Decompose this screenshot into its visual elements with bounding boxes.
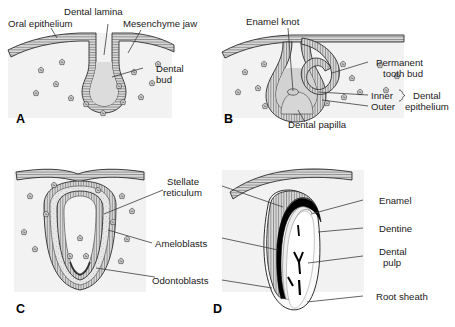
label-permanent-tooth-bud-line2: tooth bud <box>383 68 423 79</box>
panel-letter-c: C <box>16 302 25 316</box>
label-oral-epithelium: Oral epithelium <box>8 18 73 29</box>
label-dental-epithelium-line1: Dental <box>413 90 441 101</box>
label-permanent-tooth-bud-line1: Permanent <box>376 57 423 68</box>
label-enamel-knot: Enamel knot <box>246 16 299 27</box>
label-dental-pulp-line1: Dental <box>379 246 407 257</box>
label-dental-pulp-line2: pulp <box>383 257 401 268</box>
label-mesenchyme-jaw: Mesenchyme jaw <box>123 18 197 29</box>
label-root-sheath: Root sheath <box>376 291 428 302</box>
panel-letter-b: B <box>224 112 233 126</box>
label-dental-lamina: Dental lamina <box>64 6 123 17</box>
figure-artwork <box>0 0 455 327</box>
label-stellate-reticulum-line2: reticulum <box>163 187 202 198</box>
label-dental-bud-line1: Dental <box>156 63 184 74</box>
label-dental-epithelium-line2: epithelium <box>405 101 449 112</box>
label-odontoblasts: Odontoblasts <box>152 275 209 286</box>
label-inner: Inner <box>371 90 393 101</box>
label-dentine: Dentine <box>379 223 412 234</box>
label-enamel: Enamel <box>379 195 412 206</box>
label-stellate-reticulum-line1: Stellate <box>167 176 199 187</box>
label-dental-papilla: Dental papilla <box>288 119 346 130</box>
panel-d-artwork <box>222 169 364 310</box>
panel-a-artwork <box>8 33 174 118</box>
label-ameloblasts: Ameloblasts <box>155 238 207 249</box>
label-outer: Outer <box>371 101 395 112</box>
panel-c-artwork <box>14 169 146 292</box>
panel-letter-a: A <box>16 112 25 126</box>
label-dental-bud-line2: bud <box>156 74 172 85</box>
panel-letter-d: D <box>213 302 222 316</box>
tooth-development-figure: Oral epithelium Dental lamina Mesenchyme… <box>0 0 455 327</box>
